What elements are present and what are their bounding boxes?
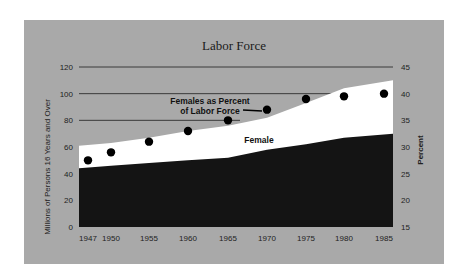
y2-tick-label: 35 — [401, 116, 410, 125]
y2-axis-label: Percent — [416, 135, 425, 165]
x-tick-label: 1970 — [258, 234, 276, 243]
percent-dot — [302, 95, 310, 103]
labor-force-chart: 0204060801001201520253035404519471950195… — [0, 0, 468, 278]
x-tick-label: 1960 — [179, 234, 197, 243]
y2-tick-label: 30 — [401, 143, 410, 152]
percent-annotation-line2: of Labor Force — [180, 106, 240, 116]
y-tick-label: 80 — [64, 116, 73, 125]
percent-dot — [263, 105, 271, 113]
percent-annotation-line1: Females as Percent — [170, 96, 250, 106]
y2-tick-label: 20 — [401, 196, 410, 205]
y2-tick-label: 25 — [401, 170, 410, 179]
y2-tick-label: 15 — [401, 223, 410, 232]
y-tick-label: 40 — [64, 170, 73, 179]
percent-dot — [224, 116, 232, 124]
annotation-pointer — [243, 110, 262, 111]
x-tick-label: 1985 — [375, 234, 393, 243]
y-axis-label: Millions of Persons 16 Years and Over — [43, 99, 52, 235]
percent-dot — [380, 89, 388, 97]
x-tick-label: 1980 — [335, 234, 353, 243]
y-tick-label: 0 — [69, 223, 74, 232]
x-tick-label: 1947 — [79, 234, 97, 243]
percent-dot — [184, 127, 192, 135]
x-tick-label: 1950 — [102, 234, 120, 243]
y-tick-label: 60 — [64, 143, 73, 152]
percent-dot — [84, 156, 92, 164]
female-area-label: Female — [244, 135, 274, 145]
x-tick-label: 1975 — [297, 234, 315, 243]
percent-dot — [145, 137, 153, 145]
y2-tick-label: 45 — [401, 63, 410, 72]
x-tick-label: 1965 — [219, 234, 237, 243]
y-tick-label: 100 — [60, 90, 74, 99]
y-tick-label: 20 — [64, 196, 73, 205]
y-tick-label: 120 — [60, 63, 74, 72]
percent-dot — [340, 92, 348, 100]
percent-dot — [107, 148, 115, 156]
y2-tick-label: 40 — [401, 90, 410, 99]
x-tick-label: 1955 — [140, 234, 158, 243]
